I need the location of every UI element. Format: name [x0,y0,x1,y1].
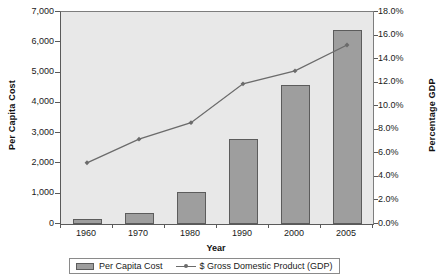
x-axis-tick-label: 1960 [60,227,112,239]
gdp-line-path [87,45,347,163]
y-axis-right-tick-label: 4.0% [378,170,424,181]
gdp-marker-2005 [345,43,350,48]
x-axis-title: Year [60,243,372,253]
y-axis-right-tick-label: 14.0% [378,53,424,64]
y-axis-left-tick-label: 0 [10,218,54,229]
y-axis-right-tick-label: 18.0% [378,6,424,17]
y-axis-right-tick-label: 6.0% [378,147,424,158]
y-axis-left-tick-label: 5,000 [10,66,54,77]
y-axis-left-tick-label: 4,000 [10,96,54,107]
y-axis-right-tick-label: 16.0% [378,29,424,40]
legend-label-gdp: $ Gross Domestic Product (GDP) [200,261,333,271]
y-axis-right-tick-label: 8.0% [378,123,424,134]
legend-label-per-capita-cost: Per Capita Cost [99,261,163,271]
y-axis-right-tick-label: 0.0% [378,218,424,229]
y-axis-left-ticks: 7,0006,0005,0004,0003,0002,0001,0000 [8,0,54,240]
y-axis-left-tick-label: 6,000 [10,36,54,47]
line-marker-swatch-icon [176,263,196,270]
plot-inner [61,12,373,224]
x-axis-tick-label: 2000 [268,227,320,239]
gdp-marker-1970 [137,137,142,142]
chart-legend: Per Capita Cost $ Gross Domestic Product… [69,258,340,274]
chart-container: Per Capita Cost Percentage GDP Year 7,00… [0,0,444,278]
bar-swatch-icon [76,263,94,270]
gdp-marker-1960 [85,160,90,165]
legend-item-gdp: $ Gross Domestic Product (GDP) [176,261,333,271]
y-axis-left-tick-label: 7,000 [10,6,54,17]
x-axis-tick-label: 1970 [112,227,164,239]
y-axis-right-tick-label: 2.0% [378,194,424,205]
plot-area [60,11,374,225]
y-axis-left-tick-label: 2,000 [10,157,54,168]
y-axis-right-tick-label: 10.0% [378,100,424,111]
y-axis-left-tick-label: 1,000 [10,187,54,198]
x-axis-tick-label: 1990 [216,227,268,239]
y-axis-right-title: Percentage GDP [427,55,437,175]
gdp-marker-2000 [293,68,298,73]
y-axis-right-tick-label: 12.0% [378,76,424,87]
legend-item-per-capita-cost: Per Capita Cost [76,261,163,271]
y-axis-right-ticks: 18.0%16.0%14.0%12.0%10.0%8.0%6.0%4.0%2.0… [378,0,426,240]
x-axis-tick-label: 1980 [164,227,216,239]
gdp-line-series [61,12,373,224]
x-axis-tick-label: 2005 [320,227,372,239]
y-axis-left-tick-label: 3,000 [10,127,54,138]
